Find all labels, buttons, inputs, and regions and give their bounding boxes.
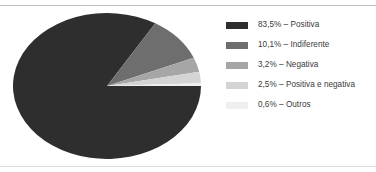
legend-swatch-positiva <box>226 22 248 29</box>
legend-item-positiva[interactable]: 83,5% – Positiva <box>226 18 319 32</box>
legend-item-negativa[interactable]: 3,2% – Negativa <box>226 58 318 72</box>
legend-swatch-outros <box>226 102 248 109</box>
legend-swatch-positiva-e-negativa <box>226 82 248 89</box>
pie-chart-figure: 83,5% – Positiva 10,1% – Indiferente 3,2… <box>0 0 376 172</box>
pie-chart-svg <box>13 13 201 159</box>
legend-label-outros: 0,6% – Outros <box>258 101 311 109</box>
legend-item-indiferente[interactable]: 10,1% – Indiferente <box>226 38 329 52</box>
pie-slice-group <box>13 13 201 159</box>
chart-legend: 83,5% – Positiva 10,1% – Indiferente 3,2… <box>226 18 376 128</box>
legend-item-outros[interactable]: 0,6% – Outros <box>226 98 311 112</box>
legend-label-indiferente: 10,1% – Indiferente <box>258 41 329 49</box>
bottom-divider-rule <box>0 166 376 167</box>
pie-chart-plot-area <box>13 13 201 159</box>
top-divider-rule <box>0 5 376 6</box>
legend-label-positiva-e-negativa: 2,5% – Positiva e negativa <box>258 81 355 89</box>
legend-swatch-negativa <box>226 62 248 69</box>
legend-label-positiva: 83,5% – Positiva <box>258 21 319 29</box>
legend-swatch-indiferente <box>226 42 248 49</box>
legend-item-positiva-e-negativa[interactable]: 2,5% – Positiva e negativa <box>226 78 355 92</box>
legend-label-negativa: 3,2% – Negativa <box>258 61 318 69</box>
